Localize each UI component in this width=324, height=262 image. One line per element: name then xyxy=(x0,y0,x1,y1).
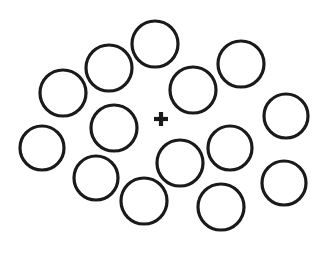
inducer-circle xyxy=(91,105,137,151)
inducer-circle xyxy=(40,70,86,116)
inducer-circle xyxy=(86,45,132,91)
inducer-circles-group xyxy=(20,21,308,230)
inducer-circle xyxy=(170,67,216,113)
inducer-circle xyxy=(198,184,244,230)
inducer-circle xyxy=(20,126,64,170)
inducer-circle xyxy=(132,21,178,67)
inducer-circle xyxy=(264,94,308,138)
inducer-circle xyxy=(157,140,203,186)
stimulus-canvas xyxy=(0,0,324,262)
inducer-circle xyxy=(208,126,252,170)
fixation-cross-group xyxy=(154,112,168,126)
inducer-circle xyxy=(121,178,167,224)
inducer-circle xyxy=(74,156,118,200)
stimulus-svg xyxy=(0,0,324,262)
inducer-circle xyxy=(262,161,306,205)
inducer-circle xyxy=(218,41,264,87)
